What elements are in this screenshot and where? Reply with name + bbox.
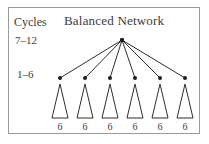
child-node-5 [158, 76, 162, 80]
tree-nodes-group [58, 38, 187, 80]
subtree-size-label: 6 [58, 121, 63, 132]
subtree-size-label: 6 [83, 121, 88, 132]
subtree-triangle [177, 84, 193, 118]
subtree-triangles-group [52, 84, 193, 118]
tree-edges-group [60, 40, 185, 78]
root-node [120, 38, 124, 42]
subtree-triangle [127, 84, 143, 118]
child-node-2 [83, 76, 87, 80]
subtree-triangle [152, 84, 168, 118]
subtree-triangle [52, 84, 68, 118]
subtree-size-label: 6 [183, 121, 188, 132]
tree-edge [122, 40, 135, 78]
subtree-triangle [102, 84, 118, 118]
child-node-1 [58, 76, 62, 80]
subtree-size-label: 6 [158, 121, 163, 132]
child-node-3 [108, 76, 112, 80]
child-node-6 [183, 76, 187, 80]
subtree-triangle [77, 84, 93, 118]
tree-edge [122, 40, 185, 78]
subtree-size-label: 6 [133, 121, 138, 132]
subtree-labels-group: 666666 [58, 121, 188, 132]
child-node-4 [133, 76, 137, 80]
subtree-size-label: 6 [108, 121, 113, 132]
network-tree-graphic: 666666 [0, 0, 209, 144]
figure-container: Cycles Balanced Network 7–12 1–6 666666 [0, 0, 209, 144]
